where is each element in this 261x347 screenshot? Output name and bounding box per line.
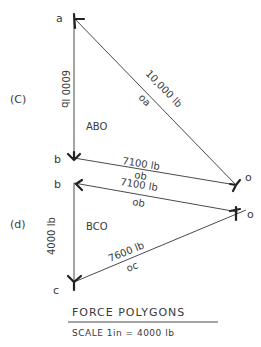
point-o-d-label: o xyxy=(247,208,254,221)
region-abo-label: ABO xyxy=(86,121,108,132)
member-ob-d-label: ob xyxy=(132,196,146,209)
point-b-c-label: b xyxy=(54,153,61,166)
force-polygons-diagram: a b o b o c (C) (d) ABO BCO 6000 lb 10,0… xyxy=(0,0,261,347)
force-ab-label: 6000 lb xyxy=(60,70,71,108)
member-oa-label: oa xyxy=(137,92,153,108)
section-d-label: (d) xyxy=(10,218,26,231)
section-c-label: (C) xyxy=(10,93,26,106)
region-bco-label: BCO xyxy=(86,221,108,232)
diagram-title: FORCE POLYGONS xyxy=(72,306,185,319)
point-b-d-label: b xyxy=(54,178,61,191)
arrowhead-a-icon xyxy=(74,14,84,28)
force-bc-label: 4000 lb xyxy=(46,217,57,255)
arrowhead-o-c-icon xyxy=(230,180,240,191)
scale-label: SCALE 1in = 4000 lb xyxy=(72,328,174,338)
member-oc-label: oc xyxy=(125,259,140,274)
arrowhead-b-d-icon xyxy=(76,180,82,190)
force-ob-d-label: 7100 lb xyxy=(120,176,159,193)
point-o-c-label: o xyxy=(245,171,252,184)
point-c-label: c xyxy=(53,284,59,297)
point-a-label: a xyxy=(56,12,63,25)
